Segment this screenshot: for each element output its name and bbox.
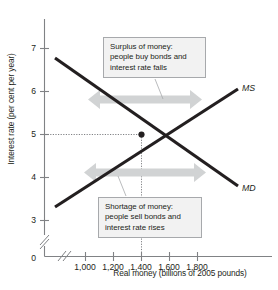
y-tick-label-4: 4 [20, 172, 36, 182]
money-market-equilibrium-chart: Interest rate (per cent per year) Real m… [0, 0, 278, 290]
surplus-callout-line-2: people buy bonds and [110, 52, 200, 62]
y-tick-label-7: 7 [20, 43, 36, 53]
y-tick-label-6: 6 [20, 86, 36, 96]
origin-label: 0 [20, 253, 36, 263]
y-tick-label-5: 5 [20, 129, 36, 139]
y-tick-label-3: 3 [20, 215, 36, 225]
shortage-callout-line-3: interest rate rises [105, 223, 196, 233]
shortage-callout-box: Shortage of money: people sell bonds and… [98, 197, 202, 238]
y-axis-title: Interest rate (per cent per year) [6, 47, 16, 171]
shortage-arrow-icon [84, 163, 206, 182]
equilibrium-point-marker [138, 131, 144, 137]
ms-curve [55, 89, 238, 207]
ms-curve-label: MS [242, 83, 255, 93]
shortage-callout-line-1: Shortage of money: [105, 202, 196, 212]
md-curve-label: MD [242, 183, 256, 193]
x-tick-label-1800: 1,800 [177, 262, 217, 272]
shortage-callout-connector [118, 176, 126, 196]
surplus-callout-box: Surplus of money: people buy bonds and i… [103, 37, 206, 78]
surplus-callout-line-3: interest rate falls [110, 63, 200, 73]
surplus-callout-line-1: Surplus of money: [110, 42, 200, 52]
shortage-callout-line-2: people sell bonds and [105, 212, 196, 222]
